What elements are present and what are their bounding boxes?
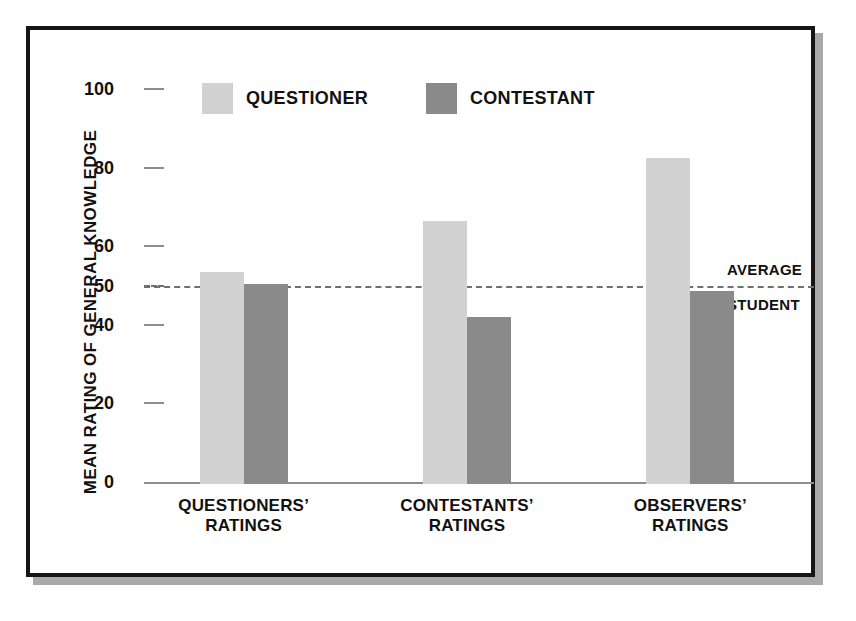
- bar-questioner-3: [646, 158, 690, 484]
- x-category-label: QUESTIONERS’RATINGS: [139, 496, 349, 536]
- x-category-label-line: QUESTIONERS’: [139, 496, 349, 516]
- y-tick-label: 0: [44, 473, 114, 491]
- legend-label: QUESTIONER: [246, 88, 368, 109]
- x-category-label: CONTESTANTS’RATINGS: [362, 496, 572, 536]
- bar-questioner-1: [200, 272, 244, 484]
- legend-item-contestant[interactable]: CONTESTANT: [426, 83, 595, 114]
- legend-label: CONTESTANT: [470, 88, 595, 109]
- reference-label-average: AVERAGE: [727, 261, 802, 278]
- plot-area: MEAN RATING OF GENERAL KNOWLEDGE 1008060…: [30, 30, 811, 573]
- y-tick-mark: [144, 88, 164, 90]
- y-tick-label: 100: [44, 80, 114, 98]
- x-category-label-line: RATINGS: [585, 516, 795, 536]
- y-tick: 60: [144, 237, 814, 255]
- legend-swatch-contestant: [426, 83, 457, 114]
- y-tick-mark: [144, 245, 164, 247]
- x-category-label-line: RATINGS: [139, 516, 349, 536]
- chart-legend: QUESTIONERCONTESTANT: [202, 83, 595, 114]
- legend-item-questioner[interactable]: QUESTIONER: [202, 83, 368, 114]
- y-tick-mark: [144, 402, 164, 404]
- y-tick: 80: [144, 159, 814, 177]
- figure-container: MEAN RATING OF GENERAL KNOWLEDGE 1008060…: [0, 0, 856, 621]
- chart-frame: MEAN RATING OF GENERAL KNOWLEDGE 1008060…: [26, 26, 815, 577]
- y-tick-mark: [144, 167, 164, 169]
- bar-contestant-1: [244, 284, 288, 484]
- y-tick-label: 80: [44, 159, 114, 177]
- x-category-label: OBSERVERS’RATINGS: [585, 496, 795, 536]
- legend-swatch-questioner: [202, 83, 233, 114]
- y-tick-label: 20: [44, 394, 114, 412]
- bar-contestant-3: [690, 291, 734, 484]
- x-category-label-line: RATINGS: [362, 516, 572, 536]
- y-tick-label: 40: [44, 316, 114, 334]
- y-tick-label: 60: [44, 237, 114, 255]
- y-tick-label: 50: [44, 277, 114, 295]
- y-tick-mark: [144, 324, 164, 326]
- bar-contestant-2: [467, 317, 511, 484]
- x-category-label-line: CONTESTANTS’: [362, 496, 572, 516]
- bar-questioner-2: [423, 221, 467, 484]
- x-category-label-line: OBSERVERS’: [585, 496, 795, 516]
- reference-label-student: STUDENT: [727, 296, 800, 313]
